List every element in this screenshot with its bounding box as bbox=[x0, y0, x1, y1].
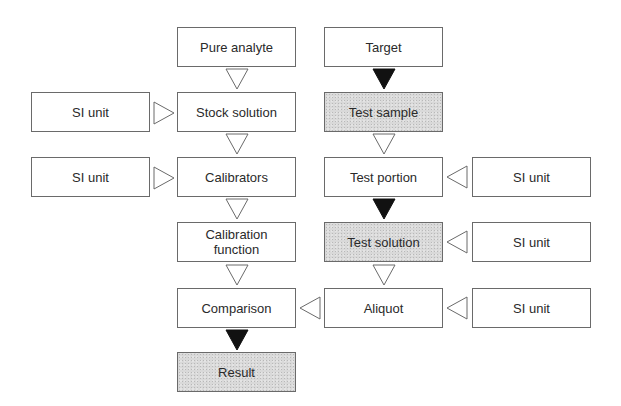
calibrators-label: Calibrators bbox=[205, 170, 268, 185]
open-left-arrow-icon bbox=[446, 296, 468, 320]
open-left-arrow-icon bbox=[446, 165, 468, 189]
open-left-arrow-icon bbox=[446, 230, 468, 254]
aliquot-box: Aliquot bbox=[324, 288, 443, 328]
si-unit-label: SI unit bbox=[513, 235, 550, 250]
test-portion-box: Test portion bbox=[324, 157, 443, 197]
si-unit-label: SI unit bbox=[513, 170, 550, 185]
open-down-arrow-icon bbox=[225, 264, 249, 286]
open-right-arrow-icon bbox=[153, 166, 175, 190]
si-unit-box-test-portion: SI unit bbox=[472, 157, 591, 197]
si-unit-label: SI unit bbox=[513, 301, 550, 316]
si-unit-box-test-solution: SI unit bbox=[472, 222, 591, 262]
stock-solution-label: Stock solution bbox=[196, 105, 277, 120]
test-sample-box: Test sample bbox=[324, 92, 443, 132]
pure-analyte-box: Pure analyte bbox=[177, 27, 296, 67]
calibration-function-label: Calibration function bbox=[196, 227, 277, 257]
si-unit-box-calibrators: SI unit bbox=[31, 157, 150, 197]
stock-solution-box: Stock solution bbox=[177, 92, 296, 132]
solid-down-arrow-icon bbox=[372, 198, 396, 220]
target-label: Target bbox=[365, 40, 401, 55]
test-solution-label: Test solution bbox=[347, 235, 419, 250]
open-down-arrow-icon bbox=[372, 133, 396, 155]
open-down-arrow-icon bbox=[372, 264, 396, 286]
si-unit-box-aliquot: SI unit bbox=[472, 288, 591, 328]
solid-down-arrow-icon bbox=[225, 329, 249, 351]
target-box: Target bbox=[324, 27, 443, 67]
calibrators-box: Calibrators bbox=[177, 157, 296, 197]
calibration-function-box: Calibration function bbox=[177, 222, 296, 262]
open-down-arrow-icon bbox=[225, 68, 249, 90]
open-down-arrow-icon bbox=[225, 133, 249, 155]
si-unit-box-stock: SI unit bbox=[31, 92, 150, 132]
test-solution-box: Test solution bbox=[324, 222, 443, 262]
comparison-label: Comparison bbox=[201, 301, 271, 316]
solid-down-arrow-icon bbox=[372, 68, 396, 90]
open-left-arrow-icon bbox=[299, 296, 321, 320]
open-right-arrow-icon bbox=[153, 101, 175, 125]
test-sample-label: Test sample bbox=[349, 105, 418, 120]
aliquot-label: Aliquot bbox=[364, 301, 404, 316]
result-label: Result bbox=[218, 365, 255, 380]
si-unit-label: SI unit bbox=[72, 170, 109, 185]
open-down-arrow-icon bbox=[225, 198, 249, 220]
si-unit-label: SI unit bbox=[72, 105, 109, 120]
comparison-box: Comparison bbox=[177, 288, 296, 328]
test-portion-label: Test portion bbox=[350, 170, 417, 185]
pure-analyte-label: Pure analyte bbox=[200, 40, 273, 55]
result-box: Result bbox=[177, 352, 296, 392]
